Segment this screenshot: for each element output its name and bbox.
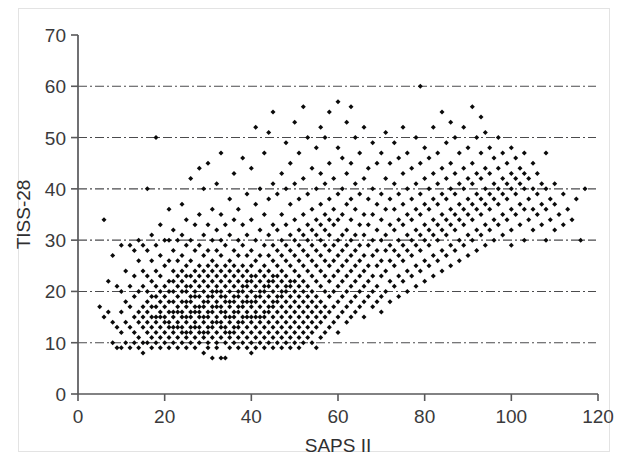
- data-point: [266, 309, 271, 314]
- data-point: [570, 217, 575, 222]
- data-point: [418, 212, 423, 217]
- data-point: [266, 294, 271, 299]
- data-point: [171, 268, 176, 273]
- data-point: [180, 289, 185, 294]
- data-point: [331, 243, 336, 248]
- data-point: [262, 325, 267, 330]
- data-point: [314, 248, 319, 253]
- data-point: [201, 279, 206, 284]
- data-point: [552, 181, 557, 186]
- data-point: [379, 191, 384, 196]
- data-point: [448, 120, 453, 125]
- data-point: [301, 289, 306, 294]
- data-point: [353, 207, 358, 212]
- data-point: [288, 233, 293, 238]
- data-point: [236, 207, 241, 212]
- data-point: [275, 294, 280, 299]
- data-point: [522, 186, 527, 191]
- data-point: [288, 325, 293, 330]
- data-point: [279, 268, 284, 273]
- data-point: [388, 222, 393, 227]
- data-point: [115, 345, 120, 350]
- data-point: [188, 309, 193, 314]
- data-point: [405, 289, 410, 294]
- data-point: [362, 315, 367, 320]
- data-point: [292, 289, 297, 294]
- data-point: [500, 176, 505, 181]
- data-point: [422, 238, 427, 243]
- data-point: [457, 202, 462, 207]
- data-point: [188, 325, 193, 330]
- data-point: [193, 335, 198, 340]
- data-point: [232, 274, 237, 279]
- data-point: [418, 191, 423, 196]
- data-point: [318, 125, 323, 130]
- data-point: [405, 212, 410, 217]
- data-point: [496, 202, 501, 207]
- data-point: [253, 238, 258, 243]
- data-point: [236, 320, 241, 325]
- data-point: [249, 330, 254, 335]
- data-point: [336, 299, 341, 304]
- data-point: [162, 294, 167, 299]
- data-point: [249, 289, 254, 294]
- data-point: [435, 181, 440, 186]
- data-point: [379, 274, 384, 279]
- data-point: [422, 202, 427, 207]
- data-point: [236, 279, 241, 284]
- data-point: [119, 243, 124, 248]
- data-point: [509, 227, 514, 232]
- data-point: [349, 104, 354, 109]
- data-point: [340, 233, 345, 238]
- data-point: [409, 166, 414, 171]
- data-point: [305, 304, 310, 309]
- data-point: [401, 243, 406, 248]
- data-point: [141, 243, 146, 248]
- data-point: [383, 268, 388, 273]
- data-point: [583, 186, 588, 191]
- x-tick-label-80: 80: [414, 406, 435, 427]
- data-point: [184, 263, 189, 268]
- data-point: [388, 299, 393, 304]
- data-point: [175, 320, 180, 325]
- data-point: [401, 202, 406, 207]
- data-point: [323, 181, 328, 186]
- data-point: [314, 315, 319, 320]
- data-point: [301, 330, 306, 335]
- data-point: [418, 161, 423, 166]
- data-point: [162, 340, 167, 345]
- data-point: [466, 233, 471, 238]
- data-point: [271, 109, 276, 114]
- data-point: [253, 315, 258, 320]
- data-point: [370, 140, 375, 145]
- data-point: [301, 309, 306, 314]
- data-point: [180, 253, 185, 258]
- data-point: [414, 181, 419, 186]
- data-point: [362, 299, 367, 304]
- data-point: [314, 217, 319, 222]
- data-point: [210, 325, 215, 330]
- data-point: [349, 161, 354, 166]
- data-point: [158, 274, 163, 279]
- data-point: [128, 345, 133, 350]
- data-point: [500, 233, 505, 238]
- data-point: [327, 248, 332, 253]
- data-point: [427, 263, 432, 268]
- data-point: [310, 274, 315, 279]
- data-point: [258, 289, 263, 294]
- data-point: [344, 227, 349, 232]
- data-point: [323, 274, 328, 279]
- data-point: [383, 207, 388, 212]
- data-point: [240, 304, 245, 309]
- data-point: [245, 284, 250, 289]
- data-point: [249, 340, 254, 345]
- data-point: [422, 176, 427, 181]
- data-point: [331, 176, 336, 181]
- data-point: [210, 258, 215, 263]
- data-point: [193, 325, 198, 330]
- data-point: [297, 197, 302, 202]
- data-point: [422, 222, 427, 227]
- data-point: [366, 294, 371, 299]
- data-point: [102, 315, 107, 320]
- data-point: [219, 268, 224, 273]
